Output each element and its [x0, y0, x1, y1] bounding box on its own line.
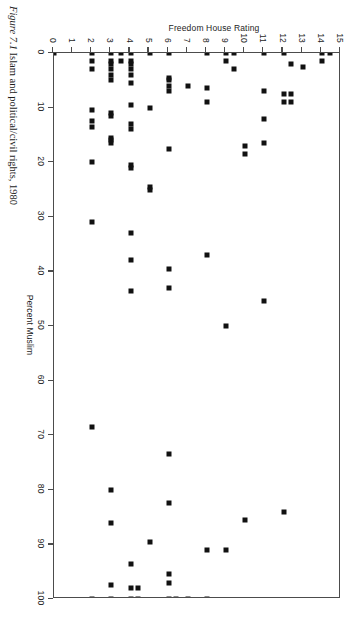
data-point [205, 100, 210, 105]
data-point [300, 64, 305, 69]
data-point [109, 72, 114, 77]
data-point [90, 160, 95, 165]
data-point [128, 67, 133, 72]
data-point [224, 59, 229, 64]
y-tick-label: 14 [316, 33, 326, 43]
data-point [109, 67, 114, 72]
data-point [262, 116, 267, 121]
y-axis-title: Freedom House Rating [114, 23, 314, 33]
data-point [205, 53, 210, 56]
x-tick [48, 434, 53, 435]
data-point [90, 220, 95, 225]
y-tick-label: 13 [297, 33, 307, 43]
data-point [166, 452, 171, 457]
data-point [166, 597, 171, 598]
data-point [90, 119, 95, 124]
y-tick [205, 47, 206, 52]
figure-caption: Figure 7.1 Islam and political/civil rig… [8, 6, 19, 606]
y-tick-label: 8 [201, 38, 211, 43]
data-point [128, 231, 133, 236]
data-point [128, 165, 133, 170]
x-tick-label: 50 [36, 320, 46, 330]
data-point [128, 288, 133, 293]
y-tick [186, 47, 187, 52]
data-point [281, 509, 286, 514]
data-point [109, 61, 114, 66]
y-tick-label: 9 [220, 38, 230, 43]
data-point [128, 561, 133, 566]
x-tick [48, 380, 53, 381]
y-tick [147, 47, 148, 52]
data-point [118, 59, 123, 64]
plot-frame [53, 52, 340, 598]
data-point [166, 266, 171, 271]
data-point [224, 324, 229, 329]
data-point [54, 53, 57, 56]
x-tick-label: 70 [36, 429, 46, 439]
data-point [262, 299, 267, 304]
data-point [147, 539, 152, 544]
data-point [289, 100, 294, 105]
y-tick-label: 0 [48, 38, 58, 43]
x-axis-title: Percent Muslim [25, 52, 35, 598]
data-point [281, 91, 286, 96]
data-point [281, 100, 286, 105]
rotated-page-stage: 0102030405060708090100 01234567891011121… [0, 0, 364, 618]
data-point [147, 187, 152, 192]
y-tick-label: 15 [335, 33, 345, 43]
y-tick [262, 47, 263, 52]
data-point [224, 547, 229, 552]
data-point [128, 81, 133, 86]
data-point [109, 597, 114, 598]
x-tick [48, 543, 53, 544]
data-point [128, 53, 133, 56]
data-point [319, 53, 324, 56]
y-tick [224, 47, 225, 52]
y-tick [320, 47, 321, 52]
y-tick-label: 2 [86, 38, 96, 43]
x-tick [48, 489, 53, 490]
figure-container: 0102030405060708090100 01234567891011121… [0, 0, 364, 618]
data-point [90, 597, 95, 598]
data-point [128, 72, 133, 77]
data-point [128, 586, 133, 591]
data-point [327, 53, 332, 56]
data-point [166, 78, 171, 83]
x-tick [48, 270, 53, 271]
data-point [109, 583, 114, 588]
y-tick-label: 10 [239, 33, 249, 43]
data-point [109, 487, 114, 492]
y-tick [339, 47, 340, 52]
data-point [262, 53, 267, 56]
data-point [166, 83, 171, 88]
y-tick [109, 47, 110, 52]
y-tick-label: 7 [182, 38, 192, 43]
y-tick [52, 47, 53, 52]
y-tick-label: 12 [278, 33, 288, 43]
data-point [109, 113, 114, 118]
y-tick-label: 6 [163, 38, 173, 43]
figure-caption-text: Islam and political/civil rights, 1980 [8, 53, 19, 206]
y-tick-label: 5 [144, 38, 154, 43]
y-tick [71, 47, 72, 52]
data-point [136, 597, 141, 598]
data-point [90, 124, 95, 129]
y-tick [128, 47, 129, 52]
y-tick [301, 47, 302, 52]
data-point [109, 520, 114, 525]
data-point [205, 597, 210, 598]
data-point [109, 78, 114, 83]
data-point [166, 89, 171, 94]
data-point [205, 253, 210, 258]
data-point [319, 59, 324, 64]
data-point [128, 121, 133, 126]
x-tick-label: 80 [36, 484, 46, 494]
x-tick-label: 30 [36, 211, 46, 221]
data-point [166, 53, 171, 56]
x-tick-label: 60 [36, 375, 46, 385]
data-point [128, 597, 133, 598]
data-point [243, 152, 248, 157]
y-tick-label: 3 [105, 38, 115, 43]
data-point [262, 141, 267, 146]
data-point [166, 146, 171, 151]
